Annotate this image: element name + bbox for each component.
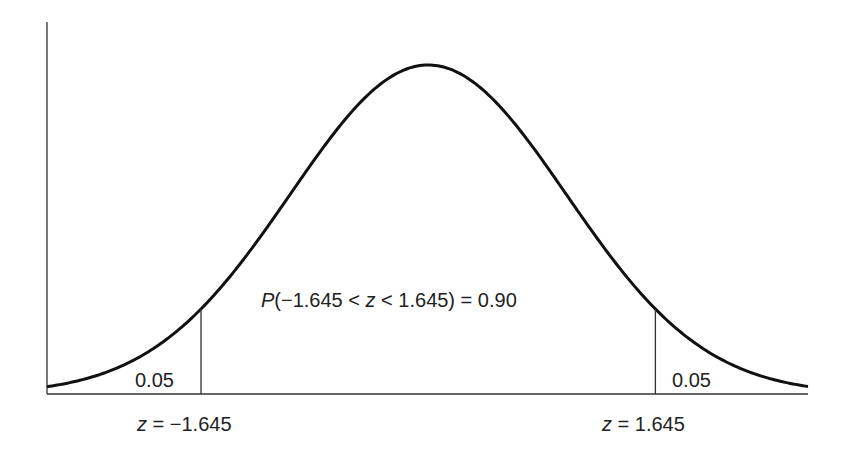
z-var: z (136, 413, 147, 435)
right-tail-area-label: 0.05 (672, 369, 711, 391)
equals: = (612, 413, 635, 435)
z-var: z (601, 413, 612, 435)
normal-curve (47, 65, 808, 387)
left-critical-z-label: z = −1.645 (136, 413, 232, 435)
right-critical-z-label: z = 1.645 (601, 413, 685, 435)
probability-annotation: P(−1.645 < z < 1.645) = 0.90 (261, 289, 517, 311)
normal-distribution-figure: 0.05 0.05 P(−1.645 < z < 1.645) = 0.90 z… (0, 0, 844, 453)
equals: = (147, 413, 170, 435)
z-value: 1.645 (635, 413, 685, 435)
probability-var: z (365, 289, 376, 311)
probability-close: < 1.645) = 0.90 (376, 289, 517, 311)
z-value: −1.645 (170, 413, 232, 435)
probability-open: (−1.645 < (274, 289, 365, 311)
probability-symbol: P (261, 289, 275, 311)
left-tail-area-label: 0.05 (135, 369, 174, 391)
